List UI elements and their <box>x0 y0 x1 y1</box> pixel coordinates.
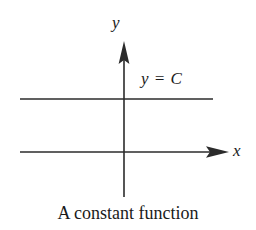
plot-canvas <box>0 0 256 230</box>
x-axis-label: x <box>233 142 241 159</box>
constant-line-equation-label: y = C <box>141 70 182 87</box>
figure-caption: A constant function <box>0 203 256 225</box>
y-axis-label: y <box>112 14 120 31</box>
constant-function-figure: y x y = C A constant function <box>0 0 256 230</box>
